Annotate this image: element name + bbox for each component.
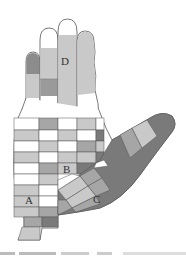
grid-cell bbox=[14, 163, 39, 174]
grid-cell bbox=[14, 118, 39, 130]
grid-cell bbox=[39, 130, 58, 141]
grid-cell bbox=[14, 141, 39, 152]
grid-cell bbox=[39, 141, 58, 152]
grid-cell bbox=[39, 174, 58, 185]
grid-cell bbox=[58, 152, 77, 163]
grid-cell bbox=[39, 152, 58, 163]
grid-cell bbox=[58, 118, 77, 130]
region-label-d: D bbox=[61, 55, 69, 67]
grid-cell bbox=[96, 141, 104, 152]
grid-cell bbox=[14, 130, 39, 141]
wrist-cells bbox=[18, 217, 58, 240]
grid-cell bbox=[39, 185, 58, 196]
grid-cell bbox=[77, 141, 96, 152]
region-label-c: C bbox=[93, 193, 100, 205]
grid-cell bbox=[77, 118, 96, 130]
grid-cell bbox=[14, 207, 39, 217]
grid-cell bbox=[39, 196, 58, 207]
grid-cell bbox=[58, 130, 77, 141]
grid-cell bbox=[77, 152, 96, 163]
cropped-caption bbox=[0, 250, 186, 256]
region-label-a: A bbox=[25, 194, 33, 206]
grid-cell bbox=[39, 207, 58, 217]
region-label-b: B bbox=[63, 163, 70, 175]
grid-cell bbox=[39, 118, 58, 130]
grid-cell bbox=[77, 130, 96, 141]
grid-cell bbox=[96, 130, 104, 141]
hand-region-diagram: DBAC bbox=[0, 0, 186, 256]
grid-cell bbox=[58, 141, 77, 152]
grid-cell bbox=[39, 163, 58, 174]
grid-cell bbox=[14, 174, 39, 185]
grid-cell bbox=[14, 152, 39, 163]
grid-cell bbox=[96, 118, 104, 130]
